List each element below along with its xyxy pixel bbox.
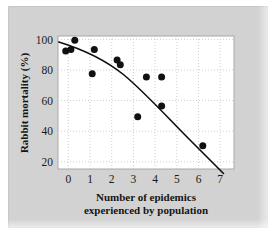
card-edge-highlight-right bbox=[258, 6, 268, 228]
x-tick-label: 3 bbox=[131, 173, 137, 185]
data-point bbox=[158, 103, 165, 110]
data-point bbox=[134, 113, 141, 120]
x-tick-label: 1 bbox=[87, 173, 93, 185]
plot-area bbox=[58, 36, 234, 169]
y-tick-label: 100 bbox=[36, 34, 54, 46]
x-tick-label: 2 bbox=[109, 173, 115, 185]
x-tick-label: 5 bbox=[174, 173, 180, 185]
data-point bbox=[67, 46, 74, 53]
x-tick-label: 6 bbox=[196, 173, 202, 185]
x-axis-title-line1: Number of epidemics bbox=[96, 191, 197, 203]
x-tick-label: 0 bbox=[65, 173, 71, 185]
data-point bbox=[143, 73, 150, 80]
card-edge-highlight-bottom bbox=[8, 219, 268, 228]
y-tick-label: 80 bbox=[42, 64, 54, 76]
data-point bbox=[117, 61, 124, 68]
y-axis-title: Rabbit mortality (%) bbox=[18, 53, 31, 154]
scatter-chart: 100 80 60 40 20 0 1 2 3 4 5 6 7 Rabbit m… bbox=[8, 6, 268, 228]
data-point bbox=[199, 142, 206, 149]
figure-card: 100 80 60 40 20 0 1 2 3 4 5 6 7 Rabbit m… bbox=[8, 6, 268, 228]
y-tick-label: 20 bbox=[42, 156, 54, 168]
x-tick-label: 7 bbox=[217, 173, 223, 185]
data-point bbox=[91, 46, 98, 53]
y-tick-label: 60 bbox=[42, 95, 54, 107]
y-axis-tick-labels: 100 80 60 40 20 bbox=[36, 34, 54, 168]
data-point bbox=[71, 37, 78, 44]
data-point bbox=[89, 70, 96, 77]
data-point bbox=[158, 73, 165, 80]
x-tick-label: 4 bbox=[152, 173, 158, 185]
y-tick-label: 40 bbox=[42, 125, 54, 137]
x-axis-title-line2: experienced by population bbox=[84, 204, 208, 216]
x-axis-tick-labels: 0 1 2 3 4 5 6 7 bbox=[65, 173, 223, 185]
